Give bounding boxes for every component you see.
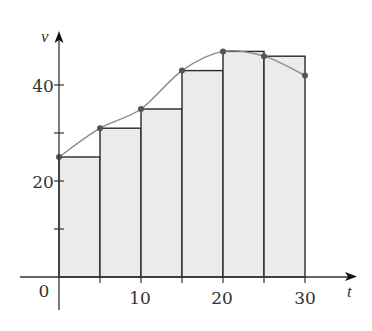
bar-rect [59,157,100,277]
riemann-sum-chart: 0 10 20 30 20 40 t v [0,0,372,331]
data-point [138,106,144,112]
bar-rect [264,56,305,277]
x-axis-label: t [347,282,353,301]
x-tick-label-30: 30 [294,288,316,308]
data-point [261,53,267,59]
y-tick-label-40: 40 [32,76,54,96]
origin-label: 0 [39,281,50,301]
x-tick-label-10: 10 [129,288,151,308]
data-point [220,48,226,54]
x-tick-label-20: 20 [211,288,233,308]
data-point [179,68,185,74]
y-axis-label: v [41,27,49,46]
data-point [97,125,103,131]
data-point [302,72,308,78]
y-tick-label-20: 20 [32,172,54,192]
bar-rect [182,71,223,277]
bar-rect [100,128,141,277]
bars-group [59,51,305,277]
bar-rect [141,109,182,277]
bar-rect [223,51,264,277]
